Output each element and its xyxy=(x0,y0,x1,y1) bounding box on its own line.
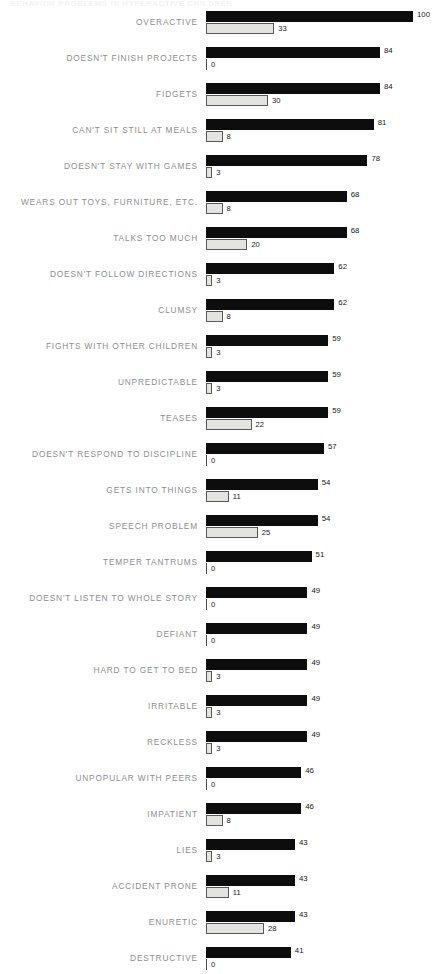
row-label: HARD TO GET TO BED xyxy=(0,665,198,676)
chart-row: RECKLESS493 xyxy=(0,731,433,767)
row-bars: 4311 xyxy=(206,875,433,911)
secondary-bar xyxy=(206,563,207,574)
row-label: DEFIANT xyxy=(0,629,198,640)
chart-row: DOESN'T RESPOND TO DISCIPLINE570 xyxy=(0,443,433,479)
chart-row: HARD TO GET TO BED493 xyxy=(0,659,433,695)
secondary-bar-value: 0 xyxy=(211,960,215,969)
primary-bar xyxy=(206,659,307,670)
secondary-bar xyxy=(206,851,212,862)
primary-bar-value: 49 xyxy=(311,658,320,667)
primary-bar-value: 62 xyxy=(338,298,347,307)
row-bars: 510 xyxy=(206,551,433,587)
row-label: DOESN'T STAY WITH GAMES xyxy=(0,161,198,172)
secondary-bar xyxy=(206,203,223,214)
primary-bar-value: 81 xyxy=(378,118,387,127)
chart-row: TALKS TOO MUCH6820 xyxy=(0,227,433,263)
secondary-bar-value: 3 xyxy=(216,744,220,753)
row-bars: 5922 xyxy=(206,407,433,443)
secondary-bar xyxy=(206,635,207,646)
chart-row: DEFIANT490 xyxy=(0,623,433,659)
row-label: TEASES xyxy=(0,413,198,424)
row-bars: 840 xyxy=(206,47,433,83)
secondary-bar xyxy=(206,491,229,502)
chart-row: IRRITABLE493 xyxy=(0,695,433,731)
secondary-bar-value: 30 xyxy=(272,96,280,105)
primary-bar xyxy=(206,767,301,778)
primary-bar-value: 57 xyxy=(328,442,337,451)
secondary-bar xyxy=(206,527,258,538)
row-bars: 623 xyxy=(206,263,433,299)
primary-bar-value: 68 xyxy=(351,226,360,235)
primary-bar xyxy=(206,479,318,490)
primary-bar xyxy=(206,191,347,202)
secondary-bar xyxy=(206,347,212,358)
row-label: IRRITABLE xyxy=(0,701,198,712)
primary-bar xyxy=(206,947,291,958)
secondary-bar xyxy=(206,923,264,934)
primary-bar xyxy=(206,695,307,706)
primary-bar xyxy=(206,371,328,382)
row-label: CLUMSY xyxy=(0,305,198,316)
secondary-bar-value: 3 xyxy=(216,852,220,861)
primary-bar-value: 43 xyxy=(299,838,308,847)
primary-bar xyxy=(206,839,295,850)
secondary-bar-value: 0 xyxy=(211,636,215,645)
primary-bar xyxy=(206,515,318,526)
chart-row: FIGHTS WITH OTHER CHILDREN593 xyxy=(0,335,433,371)
primary-bar xyxy=(206,155,367,166)
row-label: FIDGETS xyxy=(0,89,198,100)
secondary-bar-value: 0 xyxy=(211,600,215,609)
row-label: TALKS TOO MUCH xyxy=(0,233,198,244)
row-label: DOESN'T RESPOND TO DISCIPLINE xyxy=(0,449,198,460)
secondary-bar xyxy=(206,95,268,106)
primary-bar xyxy=(206,875,295,886)
secondary-bar-value: 3 xyxy=(216,672,220,681)
chart-row: UNPOPULAR WITH PEERS460 xyxy=(0,767,433,803)
chart-rows: OVERACTIVE10033DOESN'T FINISH PROJECTS84… xyxy=(0,11,433,974)
row-label: DOESN'T FINISH PROJECTS xyxy=(0,53,198,64)
secondary-bar-value: 0 xyxy=(211,564,215,573)
row-bars: 10033 xyxy=(206,11,433,47)
primary-bar-value: 46 xyxy=(305,802,314,811)
row-label: TEMPER TANTRUMS xyxy=(0,557,198,568)
primary-bar xyxy=(206,83,380,94)
row-bars: 570 xyxy=(206,443,433,479)
primary-bar-value: 59 xyxy=(332,334,341,343)
chart-row: SPEECH PROBLEM5425 xyxy=(0,515,433,551)
row-label: FIGHTS WITH OTHER CHILDREN xyxy=(0,341,198,352)
secondary-bar-value: 8 xyxy=(227,816,231,825)
row-label: UNPREDICTABLE xyxy=(0,377,198,388)
primary-bar xyxy=(206,119,374,130)
secondary-bar xyxy=(206,239,247,250)
primary-bar-value: 59 xyxy=(332,406,341,415)
secondary-bar xyxy=(206,743,212,754)
chart-row: ENURETIC4328 xyxy=(0,911,433,947)
primary-bar xyxy=(206,443,324,454)
row-bars: 410 xyxy=(206,947,433,974)
secondary-bar xyxy=(206,59,207,70)
primary-bar-value: 68 xyxy=(351,190,360,199)
row-bars: 4328 xyxy=(206,911,433,947)
primary-bar-value: 78 xyxy=(371,154,380,163)
chart-row: CAN'T SIT STILL AT MEALS818 xyxy=(0,119,433,155)
secondary-bar-value: 0 xyxy=(211,60,215,69)
chart-row: LIES433 xyxy=(0,839,433,875)
primary-bar xyxy=(206,911,295,922)
primary-bar xyxy=(206,551,312,562)
secondary-bar xyxy=(206,599,207,610)
chart-row: DOESN'T FOLLOW DIRECTIONS623 xyxy=(0,263,433,299)
secondary-bar xyxy=(206,887,229,898)
primary-bar xyxy=(206,263,334,274)
row-bars: 8430 xyxy=(206,83,433,119)
primary-bar-value: 51 xyxy=(316,550,325,559)
secondary-bar xyxy=(206,383,212,394)
primary-bar-value: 54 xyxy=(322,478,331,487)
secondary-bar xyxy=(206,455,207,466)
chart-row: DOESN'T FINISH PROJECTS840 xyxy=(0,47,433,83)
row-bars: 5425 xyxy=(206,515,433,551)
primary-bar-value: 59 xyxy=(332,370,341,379)
row-bars: 490 xyxy=(206,623,433,659)
row-bars: 493 xyxy=(206,695,433,731)
row-label: DESTRUCTIVE xyxy=(0,953,198,964)
row-bars: 688 xyxy=(206,191,433,227)
